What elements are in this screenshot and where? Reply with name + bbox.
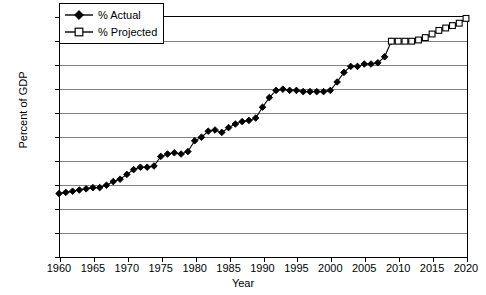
x-tick-label: 2020 [444, 262, 486, 274]
filled-diamond-icon [64, 8, 94, 22]
y-axis-title: Percent of GDP [17, 45, 29, 175]
gridline [60, 137, 467, 138]
legend-item-actual: % Actual [64, 6, 157, 23]
chart-container: Percent of GDP Year % Actual % Projected… [0, 0, 486, 295]
y-tick-mark [55, 113, 60, 114]
legend-item-projected: % Projected [64, 23, 157, 40]
legend-label-actual: % Actual [98, 9, 141, 21]
y-tick-mark [55, 209, 60, 210]
gridline [60, 65, 467, 66]
y-tick-mark [55, 161, 60, 162]
gridline [60, 161, 467, 162]
y-tick-mark [55, 185, 60, 186]
y-tick-mark [55, 233, 60, 234]
legend-label-projected: % Projected [98, 26, 157, 38]
gridline [60, 233, 467, 234]
open-square-icon [64, 25, 94, 39]
gridline [60, 185, 467, 186]
x-axis-title: Year [0, 277, 486, 289]
gridline [60, 113, 467, 114]
y-tick-mark [55, 137, 60, 138]
y-tick-mark [55, 89, 60, 90]
y-tick-mark [55, 65, 60, 66]
chart-legend: % Actual % Projected [59, 3, 164, 44]
gridline [60, 209, 467, 210]
plot-area [59, 16, 468, 258]
gridline [60, 89, 467, 90]
